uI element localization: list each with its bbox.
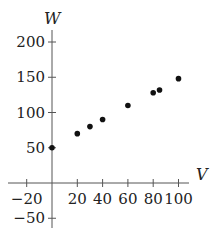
scatter-chart: −2020406080100−5050100150200 V W [0, 0, 223, 242]
ticks: −2020406080100−5050100150200 [11, 33, 193, 227]
x-tick-label: 80 [144, 190, 163, 208]
y-tick-label: −50 [13, 209, 45, 227]
data-point [75, 131, 81, 137]
x-tick-label: 20 [68, 190, 87, 208]
y-tick-label: 100 [16, 104, 45, 122]
data-point [150, 90, 156, 96]
x-tick-label: 40 [93, 190, 112, 208]
data-point [87, 124, 93, 130]
data-point [157, 87, 163, 93]
y-tick-label: 200 [16, 33, 45, 51]
x-tick-label: 60 [118, 190, 137, 208]
x-axis-label: V [196, 165, 209, 184]
x-tick-label: −20 [11, 190, 43, 208]
data-points [49, 76, 181, 151]
data-point [100, 117, 106, 123]
data-point [125, 103, 131, 109]
data-point [176, 76, 182, 82]
y-tick-label: 50 [26, 139, 45, 157]
data-point [49, 145, 55, 151]
x-tick-label: 100 [164, 190, 193, 208]
y-axis-label: W [44, 9, 62, 28]
y-tick-label: 150 [16, 68, 45, 86]
